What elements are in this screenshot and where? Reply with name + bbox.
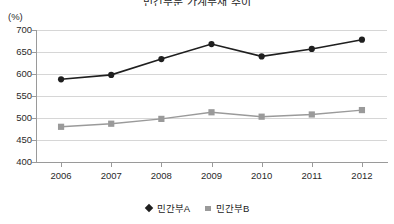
x-axis-tick-label: 2009 <box>190 170 234 181</box>
legend-label: 민간부A <box>157 203 190 214</box>
y-axis-tick-label: 650 <box>2 47 32 57</box>
gridline <box>36 140 387 141</box>
x-axis-tick-label: 2011 <box>290 170 334 181</box>
line-chart: 민간부문 가계부채 추이 (%) 700650600550500450400 민… <box>0 0 394 224</box>
y-axis-tick-mark <box>32 96 36 97</box>
y-axis-tick-mark <box>32 140 36 141</box>
y-axis-tick-label: 450 <box>2 135 32 145</box>
y-axis-line <box>36 30 37 163</box>
x-axis-tick-mark <box>362 163 363 167</box>
diamond-marker-icon <box>145 204 154 213</box>
x-axis-tick-label: 2008 <box>139 170 183 181</box>
chart-title: 민간부문 가계부채 추이 <box>0 0 394 6</box>
legend-entry-b[interactable]: 민간부B <box>204 203 249 214</box>
y-axis-tick-label: 700 <box>2 25 32 35</box>
x-axis-tick-label: 2012 <box>340 170 384 181</box>
legend-entry-a[interactable]: 민간부A <box>145 203 190 214</box>
x-axis-tick-label: 2006 <box>39 170 83 181</box>
gridline <box>36 118 387 119</box>
y-axis-tick-mark <box>32 30 36 31</box>
x-axis-tick-mark <box>161 163 162 167</box>
y-axis-tick-label: 400 <box>2 157 32 167</box>
x-axis-tick-mark <box>111 163 112 167</box>
square-marker-icon <box>204 204 213 213</box>
chart-legend: 민간부A민간부B <box>0 203 394 214</box>
y-axis-tick-label: 500 <box>2 113 32 123</box>
gridline <box>36 74 387 75</box>
gridline <box>36 52 387 53</box>
x-axis-tick-mark <box>262 163 263 167</box>
plot-area <box>36 30 387 162</box>
gridline <box>36 30 387 31</box>
y-axis-tick-mark <box>32 118 36 119</box>
y-axis-tick-mark <box>32 74 36 75</box>
y-axis-tick-label: 550 <box>2 91 32 101</box>
gridline <box>36 96 387 97</box>
x-axis-tick-mark <box>312 163 313 167</box>
x-axis-tick-label: 2010 <box>240 170 284 181</box>
x-axis-tick-mark <box>212 163 213 167</box>
x-axis-tick-label: 2007 <box>89 170 133 181</box>
y-axis-tick-label: 600 <box>2 69 32 79</box>
y-axis-tick-mark <box>32 52 36 53</box>
legend-label: 민간부B <box>216 203 249 214</box>
y-axis-tick-labels: 700650600550500450400 <box>0 0 32 224</box>
x-axis-tick-mark <box>61 163 62 167</box>
y-axis-tick-mark <box>32 162 36 163</box>
